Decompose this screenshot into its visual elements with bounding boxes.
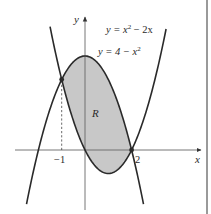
tick-label-2: 2: [135, 154, 140, 165]
region-label: R: [91, 107, 99, 119]
tick-label-neg1: −1: [54, 154, 65, 165]
curve1-main: y = x: [105, 24, 128, 35]
region-between-parabolas-diagram: y x −1 2 R y = x2 − 2x y = 4 − x2: [0, 0, 211, 214]
curve-label-x-squared-minus-2x: y = x2 − 2x: [105, 23, 154, 35]
curve2-main: y = 4 − x: [97, 46, 138, 57]
curve-label-4-minus-x-squared: y = 4 − x2: [97, 45, 141, 57]
right-border-line: [206, 0, 208, 214]
x-axis-label: x: [194, 153, 200, 165]
y-axis-label: y: [73, 13, 79, 25]
intersection-point-2-0: [129, 148, 134, 153]
curve1-tail: − 2x: [131, 24, 153, 35]
curve2-sup: 2: [137, 45, 141, 53]
intersection-point-neg1-3: [59, 77, 64, 82]
